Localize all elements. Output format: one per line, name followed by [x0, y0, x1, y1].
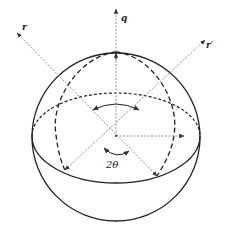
lower-angle-arc	[104, 148, 129, 155]
label-r-prime: r′	[206, 40, 214, 50]
sphere-diagram: r q r′ 2θ	[0, 0, 226, 231]
label-r: r	[22, 22, 28, 32]
great-circle-dashed	[55, 52, 116, 170]
label-angle-2theta: 2θ	[105, 159, 118, 170]
label-q: q	[121, 13, 127, 23]
r-prime-vector	[65, 40, 205, 170]
origin-point	[115, 135, 117, 137]
